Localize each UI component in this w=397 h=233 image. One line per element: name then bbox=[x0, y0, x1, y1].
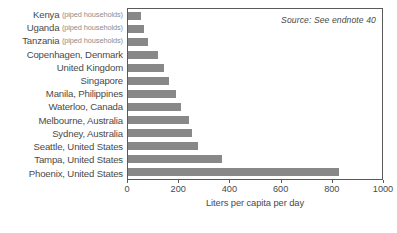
category-name: Sydney, Australia bbox=[52, 129, 123, 139]
bar-row bbox=[128, 166, 382, 179]
category-label: Tanzania(piped households) bbox=[0, 34, 127, 47]
category-name: Melbourne, Australia bbox=[39, 116, 123, 126]
category-label: Sydney, Australia bbox=[0, 127, 127, 140]
category-name: Manila, Philippines bbox=[46, 89, 123, 99]
bar-row bbox=[128, 74, 382, 87]
category-label: Kenya(piped households) bbox=[0, 8, 127, 21]
axis-tick-label: 1000 bbox=[373, 184, 393, 194]
bar bbox=[128, 64, 164, 72]
value-axis: 02004006008001000 bbox=[127, 180, 383, 198]
bar bbox=[128, 25, 144, 33]
category-label: Waterloo, Canada bbox=[0, 101, 127, 114]
category-name: Tampa, United States bbox=[34, 155, 123, 165]
bar-row bbox=[128, 114, 382, 127]
category-label: Uganda(piped households) bbox=[0, 21, 127, 34]
category-label: Seattle, United States bbox=[0, 140, 127, 153]
bar bbox=[128, 90, 176, 98]
axis-tick-label: 400 bbox=[222, 184, 237, 194]
category-label: Manila, Philippines bbox=[0, 87, 127, 100]
category-name: Kenya bbox=[33, 10, 59, 20]
axis-tick bbox=[332, 180, 333, 183]
bar bbox=[128, 129, 192, 137]
category-name: Copenhagen, Denmark bbox=[27, 50, 123, 60]
category-label: Melbourne, Australia bbox=[0, 114, 127, 127]
bar-row bbox=[128, 140, 382, 153]
category-label: Copenhagen, Denmark bbox=[0, 48, 127, 61]
category-axis: Kenya(piped households)Uganda(piped hous… bbox=[0, 8, 127, 180]
category-label: Tampa, United States bbox=[0, 154, 127, 167]
source-annotation: Source: See endnote 40 bbox=[281, 15, 376, 25]
bars-layer bbox=[128, 9, 382, 179]
category-name: Waterloo, Canada bbox=[48, 102, 123, 112]
bar bbox=[128, 51, 158, 59]
bar-row bbox=[128, 35, 382, 48]
axis-tick-label: 800 bbox=[324, 184, 339, 194]
bar-row bbox=[128, 48, 382, 61]
bar-row bbox=[128, 153, 382, 166]
axis-tick bbox=[127, 180, 128, 183]
axis-tick bbox=[178, 180, 179, 183]
axis-tick-label: 600 bbox=[273, 184, 288, 194]
category-label: Singapore bbox=[0, 74, 127, 87]
category-name: Phoenix, United States bbox=[29, 169, 123, 179]
axis-tick bbox=[281, 180, 282, 183]
bar-row bbox=[128, 101, 382, 114]
category-note: (piped households) bbox=[62, 37, 123, 44]
value-axis-title: Liters per capita per day bbox=[127, 197, 383, 208]
axis-tick bbox=[229, 180, 230, 183]
axis-tick-label: 0 bbox=[124, 184, 129, 194]
category-label: United Kingdom bbox=[0, 61, 127, 74]
bar bbox=[128, 168, 339, 176]
category-name: United Kingdom bbox=[57, 63, 123, 73]
bar-row bbox=[128, 127, 382, 140]
bar bbox=[128, 38, 148, 46]
category-name: Singapore bbox=[81, 76, 123, 86]
bar bbox=[128, 103, 181, 111]
bar bbox=[128, 155, 222, 163]
axis-tick-label: 200 bbox=[171, 184, 186, 194]
bar bbox=[128, 142, 198, 150]
bar bbox=[128, 77, 169, 85]
bar-chart-figure: Kenya(piped households)Uganda(piped hous… bbox=[0, 0, 397, 233]
category-name: Uganda bbox=[27, 23, 60, 33]
category-name: Tanzania bbox=[22, 36, 59, 46]
category-note: (piped households) bbox=[62, 24, 123, 31]
bar bbox=[128, 116, 189, 124]
bar-row bbox=[128, 61, 382, 74]
bar bbox=[128, 12, 141, 20]
axis-tick bbox=[383, 180, 384, 183]
category-name: Seattle, United States bbox=[34, 142, 124, 152]
bar-row bbox=[128, 87, 382, 100]
category-label: Phoenix, United States bbox=[0, 167, 127, 180]
category-note: (piped households) bbox=[62, 11, 123, 18]
plot-area: Source: See endnote 40 bbox=[127, 8, 383, 180]
